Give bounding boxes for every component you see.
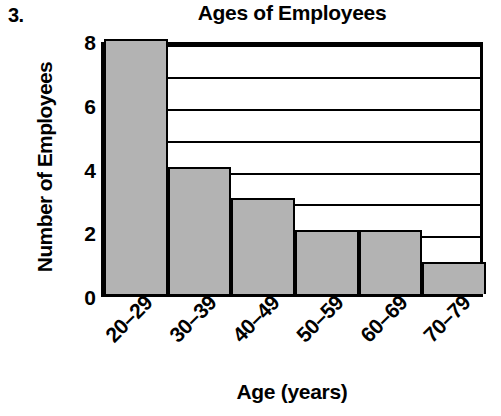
bar xyxy=(168,167,232,295)
chart-title: Ages of Employees xyxy=(101,1,483,25)
bar xyxy=(231,198,295,294)
x-axis-title: Age (years) xyxy=(101,380,483,404)
x-axis-tick-labels: 20–2930–3940–4950–5960–6970–79 xyxy=(101,297,483,377)
y-tick-label: 2 xyxy=(70,223,96,244)
y-tick-label: 6 xyxy=(70,96,96,117)
bar xyxy=(422,262,486,294)
y-tick-label: 0 xyxy=(70,287,96,308)
y-axis-tick-labels: 02468 xyxy=(66,42,96,297)
bar xyxy=(359,230,423,294)
y-axis-title: Number of Employees xyxy=(33,37,57,297)
bar xyxy=(295,230,359,294)
y-tick-label: 8 xyxy=(70,32,96,53)
y-tick-label: 4 xyxy=(70,160,96,181)
problem-number: 3. xyxy=(8,4,24,27)
plot-area xyxy=(101,42,483,297)
bar xyxy=(104,39,168,294)
chart-page: 3. Ages of Employees Number of Employees… xyxy=(0,0,501,416)
plot-inner xyxy=(104,45,480,294)
